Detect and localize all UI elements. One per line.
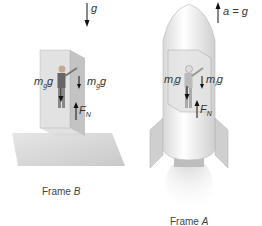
ground-plane (12, 133, 125, 166)
weight-label-left-b: mgg (34, 75, 53, 89)
box-side (70, 50, 85, 136)
frame-a-caption: Frame A (170, 216, 208, 226)
weight-label-right-b: mgg (87, 75, 106, 89)
gravity-label: g (91, 2, 97, 14)
normal-force-label-b: FN (79, 104, 91, 118)
frame-a-illustration (150, 2, 228, 213)
rocket-fin-left (150, 118, 163, 168)
diagram-canvas (0, 0, 262, 226)
frame-b-illustration (12, 3, 125, 166)
rocket-fin-right (215, 118, 228, 168)
weight-label-right-a: mig (206, 73, 223, 87)
frame-b-caption: Frame B (42, 186, 80, 197)
acceleration-label: a = g (223, 5, 248, 17)
weight-label-left-a: mig (164, 73, 181, 87)
normal-force-label-a: FN (200, 103, 212, 117)
